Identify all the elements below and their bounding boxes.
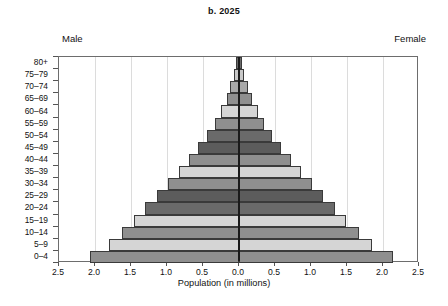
bar-male-20-24 bbox=[145, 202, 239, 214]
bar-male-15-19 bbox=[134, 215, 239, 227]
x-tick-label: 0.5 bbox=[268, 267, 280, 277]
bar-female-65-69 bbox=[239, 93, 252, 105]
y-tick-label: 60–64 bbox=[25, 106, 48, 116]
x-tick-label: 1.0 bbox=[160, 267, 172, 277]
bar-male-25-29 bbox=[157, 190, 239, 202]
bar-female-25-29 bbox=[239, 190, 323, 202]
bar-male-60-64 bbox=[221, 105, 239, 117]
x-axis-title: Population (in millions) bbox=[0, 278, 448, 288]
male-side-label: Male bbox=[62, 33, 83, 44]
female-side-label: Female bbox=[394, 33, 426, 44]
x-tick-mark bbox=[418, 262, 419, 266]
x-tick-label: 1.0 bbox=[304, 267, 316, 277]
bar-female-60-64 bbox=[239, 105, 258, 117]
bar-female-55-59 bbox=[239, 118, 264, 130]
y-tick-label: 80+ bbox=[34, 57, 48, 67]
chart-title: b. 2025 bbox=[0, 6, 448, 16]
y-tick-label: 0–4 bbox=[34, 251, 48, 261]
x-tick-label: 1.5 bbox=[124, 267, 136, 277]
population-pyramid-chart: b. 2025 Male Female 80+75–7970–7465–6960… bbox=[0, 0, 448, 306]
y-tick-label: 15–19 bbox=[25, 215, 48, 225]
bar-male-40-44 bbox=[189, 154, 239, 166]
y-tick-label: 35–39 bbox=[25, 166, 48, 176]
y-tick-label: 45–49 bbox=[25, 142, 48, 152]
bar-female-5-9 bbox=[239, 239, 372, 251]
bar-male-10-14 bbox=[122, 227, 239, 239]
x-tick-label: 2.5 bbox=[412, 267, 424, 277]
bar-female-75-79 bbox=[239, 69, 244, 81]
bar-female-40-44 bbox=[239, 154, 291, 166]
bar-female-70-74 bbox=[239, 81, 248, 93]
bar-female-15-19 bbox=[239, 215, 346, 227]
bar-male-35-39 bbox=[179, 166, 239, 178]
y-tick-label: 5–9 bbox=[34, 239, 48, 249]
bar-female-20-24 bbox=[239, 202, 335, 214]
bar-male-5-9 bbox=[109, 239, 239, 251]
y-tick-label: 55–59 bbox=[25, 118, 48, 128]
y-tick-label: 40–44 bbox=[25, 154, 48, 164]
y-axis-age-groups: 80+75–7970–7465–6960–6455–5950–5445–4940… bbox=[0, 56, 58, 262]
bar-male-65-69 bbox=[227, 93, 239, 105]
bar-female-50-54 bbox=[239, 130, 272, 142]
y-tick-label: 65–69 bbox=[25, 93, 48, 103]
x-tick-label: 2.0 bbox=[376, 267, 388, 277]
y-tick-label: 70–74 bbox=[25, 81, 48, 91]
bar-female-30-34 bbox=[239, 178, 312, 190]
plot-area bbox=[58, 56, 418, 262]
bar-female-0-4 bbox=[239, 251, 393, 263]
x-tick-label: 0.0 bbox=[232, 267, 244, 277]
y-tick-label: 75–79 bbox=[25, 69, 48, 79]
y-tick-label: 20–24 bbox=[25, 202, 48, 212]
x-tick-label: 2.0 bbox=[88, 267, 100, 277]
bar-male-30-34 bbox=[168, 178, 239, 190]
bar-male-45-49 bbox=[198, 142, 239, 154]
x-tick-label: 2.5 bbox=[52, 267, 64, 277]
bar-female-45-49 bbox=[239, 142, 281, 154]
y-tick-label: 30–34 bbox=[25, 178, 48, 188]
y-tick-label: 10–14 bbox=[25, 227, 48, 237]
bar-male-55-59 bbox=[215, 118, 239, 130]
bar-female-35-39 bbox=[239, 166, 301, 178]
zero-axis-line bbox=[238, 57, 239, 261]
y-tick-label: 50–54 bbox=[25, 130, 48, 140]
x-tick-label: 1.5 bbox=[340, 267, 352, 277]
x-tick-label: 0.5 bbox=[196, 267, 208, 277]
bar-male-50-54 bbox=[207, 130, 239, 142]
bar-female-10-14 bbox=[239, 227, 359, 239]
y-tick-label: 25–29 bbox=[25, 190, 48, 200]
bar-male-0-4 bbox=[90, 251, 239, 263]
